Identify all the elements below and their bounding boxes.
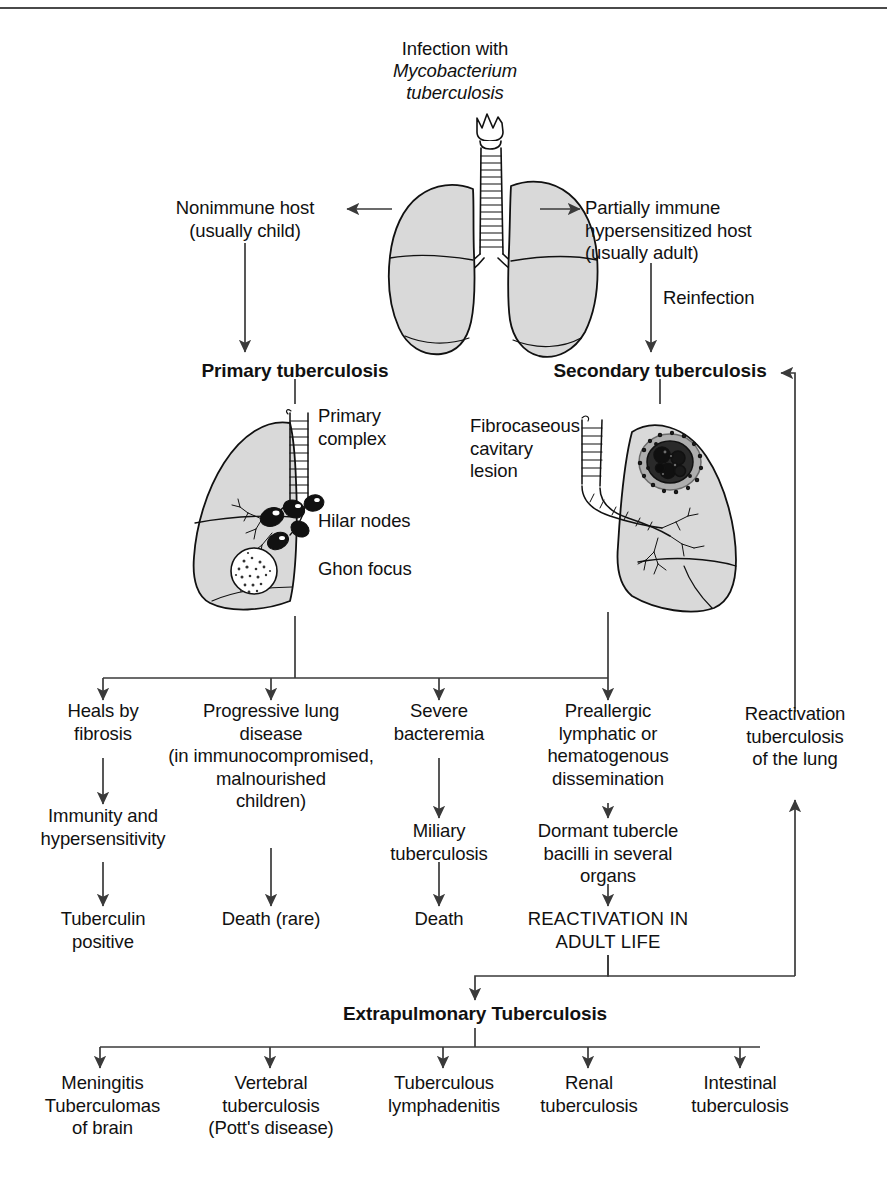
flow-connectors [0, 0, 887, 1177]
outcome-preallergic-dissemination: Preallergic lymphatic or hematogenous di… [513, 700, 703, 790]
extrapulmonary-item-renal: Renal tuberculosis [508, 1072, 670, 1117]
heading-extrapulmonary-tuberculosis: Extrapulmonary Tuberculosis [275, 1003, 675, 1026]
outcome-tuberculin-positive: Tuberculin positive [23, 908, 183, 953]
outcome-death: Death [364, 908, 514, 931]
outcome-severe-bacteremia: Severe bacteremia [354, 700, 524, 745]
label-fibrocaseous-cavitary-lesion: Fibrocaseous cavitary lesion [470, 415, 640, 483]
tuberculosis-pathogenesis-figure: Infection with Mycobacterium tuberculosi… [0, 0, 887, 1177]
outcome-dormant-tubercle-bacilli: Dormant tubercle bacilli in several orga… [503, 820, 713, 888]
heading-secondary-tuberculosis: Secondary tuberculosis [510, 360, 810, 383]
figure-title-line-3: tuberculosis [340, 82, 570, 105]
extrapulmonary-item-lymphadenitis: Tuberculous lymphadenitis [358, 1072, 530, 1117]
label-reinfection: Reinfection [663, 287, 813, 310]
outcome-reactivation-tuberculosis-of-lung: Reactivation tuberculosis of the lung [712, 703, 878, 771]
label-nonimmune-host: Nonimmune host (usually child) [140, 197, 350, 242]
extrapulmonary-item-vertebral: Vertebral tuberculosis (Pott's disease) [180, 1072, 362, 1140]
figure-title-line-1: Infection with [340, 38, 570, 61]
extrapulmonary-item-intestinal: Intestinal tuberculosis [658, 1072, 822, 1117]
label-hilar-nodes: Hilar nodes [318, 510, 498, 533]
outcome-death-rare: Death (rare) [181, 908, 361, 931]
label-primary-complex: Primary complex [318, 405, 488, 450]
figure-title-line-2: Mycobacterium [340, 60, 570, 83]
lungs-illustration-main [385, 108, 600, 370]
label-partially-immune-host: Partially immune hypersensitized host (u… [585, 197, 815, 265]
outcome-reactivation-adult-life: REACTIVATION IN ADULT LIFE [503, 908, 713, 953]
page-top-rule [0, 7, 887, 9]
outcome-miliary-tuberculosis: Miliary tuberculosis [354, 820, 524, 865]
label-ghon-focus: Ghon focus [318, 558, 498, 581]
heading-primary-tuberculosis: Primary tuberculosis [145, 360, 445, 383]
extrapulmonary-item-meningitis: Meningitis Tuberculomas of brain [15, 1072, 190, 1140]
